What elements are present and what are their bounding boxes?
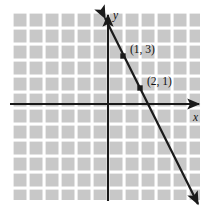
x-axis-label: x (193, 112, 198, 124)
point-marker-2 (137, 85, 142, 90)
y-axis-label: y (113, 10, 118, 22)
point-label-2: (2, 1) (147, 76, 172, 88)
point-label-1: (1, 3) (130, 44, 155, 56)
point-marker-1 (120, 53, 125, 58)
graph-figure: (1, 3) (2, 1) x y (0, 0, 213, 214)
grid-background (12, 12, 200, 200)
coordinate-plane (0, 0, 213, 214)
